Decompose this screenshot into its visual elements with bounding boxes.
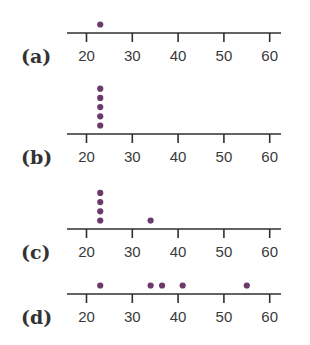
x-tick-label: 20 — [78, 308, 95, 325]
x-tick-label: 20 — [78, 243, 95, 260]
data-dot — [97, 190, 103, 196]
data-dot — [97, 104, 103, 110]
x-tick-label: 60 — [261, 47, 278, 64]
data-dot — [244, 282, 250, 288]
x-tick-label: 50 — [216, 243, 233, 260]
data-dot — [97, 217, 103, 223]
x-tick-label: 60 — [261, 148, 278, 165]
data-dot — [97, 208, 103, 214]
data-dot — [97, 113, 103, 119]
x-tick-label: 40 — [170, 148, 187, 165]
x-tick-label: 20 — [78, 47, 95, 64]
x-tick-label: 50 — [216, 47, 233, 64]
x-tick-label: 20 — [78, 148, 95, 165]
dot-plot-figure: 2030405060(a)2030405060(b)2030405060(c)2… — [0, 0, 310, 345]
dot-plot-panel-c: 2030405060(c) — [21, 190, 281, 263]
dot-plot-panel-a: 2030405060(a) — [21, 21, 281, 67]
data-dot — [97, 282, 103, 288]
data-dot — [180, 282, 186, 288]
x-tick-label: 30 — [124, 148, 141, 165]
x-tick-label: 30 — [124, 47, 141, 64]
panel-label: (b) — [21, 146, 52, 168]
data-dot — [97, 122, 103, 128]
data-dot — [148, 282, 154, 288]
dot-plot-panel-d: 2030405060(d) — [21, 282, 281, 328]
x-tick-label: 60 — [261, 308, 278, 325]
data-dot — [97, 95, 103, 101]
dot-plot-panel-b: 2030405060(b) — [21, 86, 281, 168]
x-tick-label: 60 — [261, 243, 278, 260]
data-dot — [97, 86, 103, 92]
x-tick-label: 40 — [170, 308, 187, 325]
x-tick-label: 50 — [216, 148, 233, 165]
x-tick-label: 50 — [216, 308, 233, 325]
data-dot — [148, 217, 154, 223]
data-dot — [159, 282, 165, 288]
panel-label: (d) — [21, 306, 52, 328]
panel-label: (c) — [21, 241, 51, 263]
data-dot — [97, 21, 103, 27]
x-tick-label: 40 — [170, 47, 187, 64]
data-dot — [97, 199, 103, 205]
x-tick-label: 40 — [170, 243, 187, 260]
panel-label: (a) — [21, 45, 51, 67]
x-tick-label: 30 — [124, 308, 141, 325]
x-tick-label: 30 — [124, 243, 141, 260]
